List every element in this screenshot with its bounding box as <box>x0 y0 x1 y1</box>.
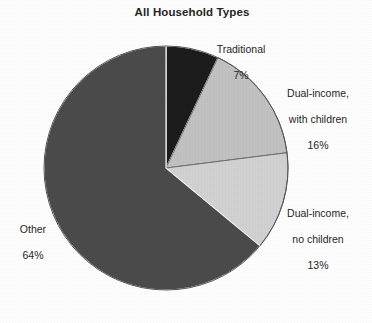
label-other: Other 64% <box>2 210 64 275</box>
label-dual-income-no-children-name-line2: no children <box>268 233 368 246</box>
label-dual-income-no-children-name-line1: Dual-income, <box>268 207 368 220</box>
label-dual-income-no-children-value: 13% <box>268 259 368 272</box>
label-traditional-name: Traditional <box>198 43 284 56</box>
label-dual-income-with-children: Dual-income, with children 16% <box>266 74 370 165</box>
label-dual-income-with-children-value: 16% <box>266 139 370 152</box>
label-dual-income-no-children: Dual-income, no children 13% <box>268 194 368 285</box>
label-other-value: 64% <box>2 249 64 262</box>
label-dual-income-with-children-name-line2: with children <box>266 113 370 126</box>
label-dual-income-with-children-name-line1: Dual-income, <box>266 87 370 100</box>
pie-chart-figure: All Household Types Traditional 7% Dual-… <box>0 0 372 323</box>
label-other-name: Other <box>2 223 64 236</box>
